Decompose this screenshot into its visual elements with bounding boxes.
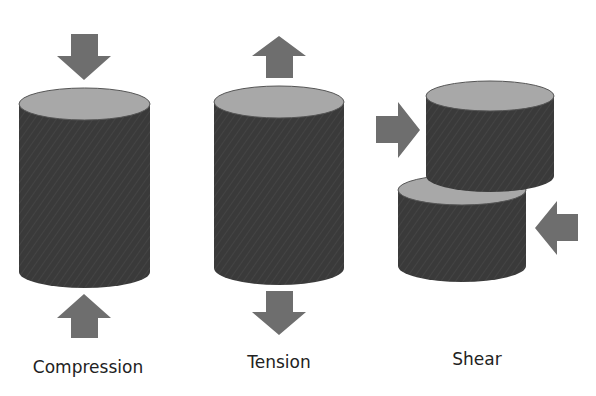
shear-panel: [376, 81, 578, 282]
arrow-up-icon: [252, 36, 306, 78]
arrow-down-icon: [57, 34, 111, 80]
arrow-right-icon: [376, 102, 420, 158]
cylinder: [214, 86, 344, 285]
arrow-up-icon: [57, 294, 111, 338]
label-shear: Shear: [452, 349, 501, 369]
arrow-left-icon: [535, 201, 578, 255]
label-tension: Tension: [247, 352, 310, 372]
stress-types-diagram: [0, 0, 596, 396]
cylinder: [19, 88, 150, 288]
label-compression: Compression: [33, 357, 143, 377]
compression-panel: [19, 34, 150, 338]
arrow-down-icon: [252, 291, 306, 335]
upper-cylinder: [426, 81, 554, 192]
tension-panel: [214, 36, 344, 335]
